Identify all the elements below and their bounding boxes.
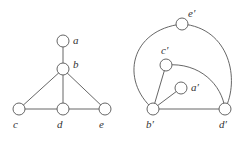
edge-b-c [19,69,63,109]
node-e [99,103,111,115]
label-e: e [99,118,104,130]
label-a: a [73,34,79,46]
node-a-prime [175,82,187,94]
node-a [57,35,69,47]
label-d: d [57,118,63,130]
node-b [57,63,69,75]
edge-bp-ep [134,24,182,109]
label-e-prime: e′ [188,7,196,19]
edge-ep-dp [182,24,231,109]
edge-b-e [63,69,105,109]
node-e-prime [176,18,188,30]
node-c-prime [160,59,172,71]
edge-bp-cp [153,65,166,109]
node-c [13,103,25,115]
label-c-prime: c′ [161,44,169,56]
node-d [57,103,69,115]
left-graph: a b c d e [13,34,111,130]
label-d-prime: d′ [219,118,228,130]
node-b-prime [147,103,159,115]
right-graph: e′ c′ a′ b′ d′ [134,7,231,130]
label-a-prime: a′ [191,81,200,93]
label-b-prime: b′ [146,118,155,130]
graph-diagram: a b c d e e′ c′ a′ b′ d′ [0,0,245,143]
label-b: b [73,58,79,70]
label-c: c [13,118,18,130]
node-d-prime [219,103,231,115]
